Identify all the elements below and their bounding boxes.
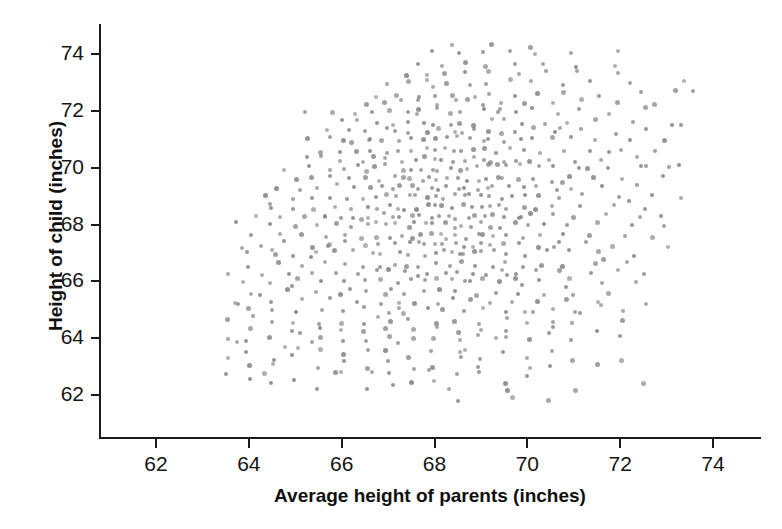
- scatter-point: [447, 214, 451, 218]
- scatter-point: [431, 336, 436, 341]
- scatter-point: [516, 292, 520, 296]
- scatter-point: [516, 177, 521, 182]
- scatter-point: [383, 348, 388, 353]
- scatter-point: [349, 140, 354, 145]
- scatter-point: [600, 281, 604, 285]
- scatter-point: [436, 188, 440, 192]
- scatter-point: [596, 300, 600, 304]
- scatter-point: [325, 128, 329, 132]
- scatter-point: [453, 217, 457, 221]
- scatter-point: [376, 315, 380, 319]
- scatter-point: [249, 233, 253, 237]
- scatter-point: [631, 120, 635, 124]
- scatter-point: [433, 148, 437, 152]
- scatter-point: [290, 353, 294, 357]
- scatter-point: [361, 329, 366, 334]
- scatter-point: [352, 185, 356, 189]
- scatter-point: [326, 244, 330, 248]
- scatter-point: [361, 160, 365, 164]
- scatter-point: [416, 187, 420, 191]
- scatter-point: [599, 158, 603, 162]
- scatter-point: [585, 166, 590, 171]
- scatter-point: [635, 155, 639, 159]
- scatter-point: [505, 273, 509, 277]
- scatter-point: [488, 301, 492, 305]
- scatter-point: [368, 185, 373, 190]
- scatter-point: [459, 259, 464, 264]
- scatter-point: [342, 279, 346, 283]
- scatter-point: [569, 51, 573, 55]
- scatter-point: [387, 371, 391, 375]
- scatter-point: [292, 378, 296, 382]
- scatter-point: [620, 177, 624, 181]
- scatter-point: [508, 77, 513, 82]
- scatter-point: [682, 79, 686, 83]
- scatter-point: [455, 134, 459, 138]
- scatter-point: [531, 125, 536, 130]
- scatter-point: [476, 188, 480, 192]
- scatter-point: [510, 395, 515, 400]
- scatter-point: [244, 350, 248, 354]
- scatter-point: [508, 49, 512, 53]
- scatter-point: [333, 205, 337, 209]
- scatter-point: [573, 310, 577, 314]
- x-tick-72: [619, 439, 621, 448]
- scatter-point: [272, 358, 276, 362]
- scatter-point: [455, 372, 459, 376]
- y-tick-64: [91, 337, 100, 339]
- scatter-point: [382, 211, 386, 215]
- x-tick-74: [712, 439, 714, 448]
- scatter-point: [447, 387, 451, 391]
- scatter-point: [235, 340, 239, 344]
- scatter-point: [502, 215, 506, 219]
- scatter-point: [305, 155, 309, 159]
- scatter-point: [361, 197, 365, 201]
- scatter-point: [567, 248, 571, 252]
- scatter-point: [627, 199, 631, 203]
- scatter-point: [562, 149, 566, 153]
- scatter-point: [531, 177, 535, 181]
- scatter-point: [458, 338, 462, 342]
- scatter-point: [514, 110, 518, 114]
- scatter-point: [391, 187, 395, 191]
- scatter-point: [276, 260, 281, 265]
- scatter-point: [439, 158, 443, 162]
- scatter-point: [662, 224, 666, 228]
- scatter-point: [463, 279, 467, 283]
- scatter-point: [416, 265, 420, 269]
- scatter-point: [359, 217, 364, 222]
- scatter-point: [296, 346, 300, 350]
- scatter-point: [479, 193, 483, 197]
- scatter-point: [538, 151, 542, 155]
- scatter-point: [578, 311, 582, 315]
- scatter-point: [315, 387, 319, 391]
- scatter-point: [450, 250, 454, 254]
- scatter-point: [480, 232, 485, 237]
- scatter-point: [546, 398, 551, 403]
- scatter-point: [416, 62, 420, 66]
- scatter-point: [453, 130, 457, 134]
- scatter-point: [595, 329, 599, 333]
- scatter-point: [573, 388, 578, 393]
- scatter-point: [437, 287, 442, 292]
- scatter-point: [401, 168, 406, 173]
- scatter-point: [639, 90, 643, 94]
- scatter-point: [463, 159, 467, 163]
- scatter-point: [448, 111, 453, 116]
- scatter-point: [388, 319, 393, 324]
- scatter-point: [417, 95, 421, 99]
- scatter-point: [328, 135, 332, 139]
- scatter-point: [505, 388, 510, 393]
- scatter-point: [571, 215, 576, 220]
- scatter-point: [618, 334, 622, 338]
- scatter-point: [564, 285, 568, 289]
- scatter-point: [458, 252, 462, 256]
- x-tick-label-64: 64: [224, 452, 274, 476]
- scatter-point: [575, 69, 579, 73]
- scatter-point: [510, 300, 514, 304]
- scatter-point: [421, 179, 425, 183]
- scatter-point: [643, 105, 648, 110]
- scatter-point: [607, 150, 611, 154]
- scatter-point: [557, 268, 562, 273]
- scatter-point: [374, 220, 378, 224]
